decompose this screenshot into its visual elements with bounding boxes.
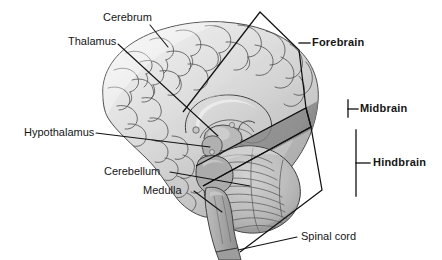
label-cerebellum: Cerebellum bbox=[104, 166, 160, 177]
label-midbrain: Midbrain bbox=[360, 103, 407, 114]
label-cerebrum: Cerebrum bbox=[103, 12, 152, 23]
label-spinal-cord: Spinal cord bbox=[301, 231, 356, 242]
label-forebrain: Forebrain bbox=[312, 37, 365, 48]
label-hindbrain: Hindbrain bbox=[373, 157, 426, 168]
label-medulla: Medulla bbox=[143, 185, 182, 196]
brain-anatomy-figure: Cerebrum Thalamus Hypothalamus Cerebellu… bbox=[0, 0, 442, 260]
label-thalamus: Thalamus bbox=[68, 36, 116, 47]
label-hypothalamus: Hypothalamus bbox=[24, 127, 94, 138]
leader-spinal-cord bbox=[238, 237, 297, 250]
